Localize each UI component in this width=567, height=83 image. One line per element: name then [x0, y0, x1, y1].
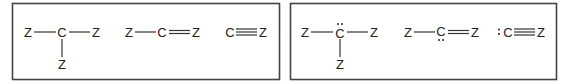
- single-bond-structure: Z C Z Z: [24, 25, 100, 72]
- atom-z: Z: [259, 25, 267, 40]
- single-bond-structure-lone-pair: Z C Z Z: [301, 23, 378, 72]
- atom-z: Z: [370, 25, 378, 40]
- atom-z: Z: [301, 25, 309, 40]
- lewis-structure-diagram: Z C Z Z Z C Z C Z Z C Z Z: [0, 0, 567, 83]
- lone-pair-dots: [498, 29, 500, 36]
- atom-z: Z: [404, 25, 412, 40]
- triple-bond-structure-lone-pair: C Z: [498, 25, 545, 40]
- electron-dot: [438, 39, 440, 41]
- double-bond-structure-lone-pair: Z C Z: [404, 24, 479, 42]
- atom-z: Z: [192, 25, 200, 40]
- atom-c: C: [57, 25, 66, 40]
- atom-z: Z: [24, 25, 32, 40]
- atom-z: Z: [537, 25, 545, 40]
- atom-z: Z: [125, 25, 133, 40]
- electron-dot: [498, 29, 500, 31]
- double-bond-structure: Z C Z: [125, 25, 200, 40]
- lone-pair-dots: [438, 39, 444, 41]
- atom-c: C: [157, 25, 166, 40]
- triple-bond-structure: C Z: [225, 25, 267, 40]
- atom-z: Z: [58, 57, 66, 72]
- atom-c: C: [225, 25, 234, 40]
- left-panel-frame: [13, 4, 280, 80]
- electron-dot: [337, 23, 339, 25]
- atom-c: C: [335, 26, 344, 41]
- electron-dot: [341, 23, 343, 25]
- atom-z: Z: [336, 57, 344, 72]
- electron-dot: [442, 39, 444, 41]
- atom-z: Z: [92, 25, 100, 40]
- atom-c: C: [503, 25, 512, 40]
- atom-z: Z: [471, 25, 479, 40]
- electron-dot: [498, 33, 500, 35]
- atom-c: C: [436, 24, 445, 39]
- right-panel-frame: [291, 4, 557, 80]
